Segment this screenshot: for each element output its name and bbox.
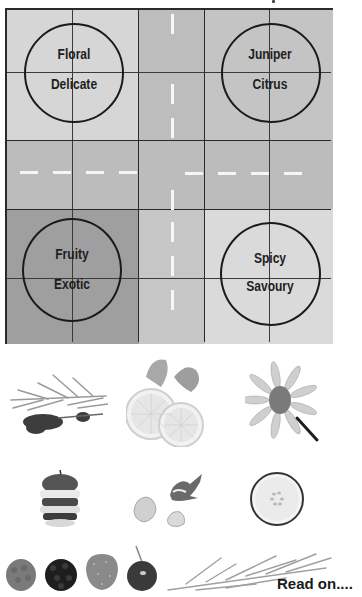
ginger-garlic-image: [128, 470, 210, 528]
quadrant-circle-floral: [24, 23, 124, 123]
quadrant-circle-fruity: [22, 218, 122, 322]
label-spicy: Spicy: [227, 250, 313, 266]
top-edge-mark: [272, 0, 275, 3]
label-exotic: Exotic: [29, 276, 115, 292]
road-dash: [171, 222, 174, 242]
rosemary-lavender-image: [8, 370, 108, 440]
road-dash: [218, 172, 236, 175]
strawberry-image: [82, 550, 122, 592]
road-dash: [185, 172, 203, 175]
label-fruity: Fruity: [29, 246, 115, 262]
grid-line-v3: [204, 10, 205, 342]
lemon-mint-image: [126, 352, 212, 447]
label-savoury: Savoury: [227, 278, 313, 294]
flavour-grid: Floral Delicate Juniper Citrus Fruity Ex…: [5, 8, 333, 344]
label-citrus: Citrus: [227, 76, 313, 92]
quadrant-circle-spicy: [220, 222, 321, 326]
cucumber-slice-image: [248, 470, 306, 528]
road-dash: [171, 190, 174, 210]
road-dash: [20, 171, 38, 174]
sliced-apple-image: [36, 468, 84, 528]
grid-line-h2: [7, 140, 331, 141]
road-dash: [171, 256, 174, 276]
road-dash: [171, 14, 174, 34]
road-dash: [53, 171, 71, 174]
label-floral: Floral: [31, 46, 117, 62]
label-delicate: Delicate: [31, 76, 117, 92]
read-on-link[interactable]: Read on....: [277, 575, 353, 592]
road-dash: [171, 290, 174, 310]
cherry-image: [124, 544, 160, 592]
road-dash: [171, 118, 174, 138]
blackberry-image: [43, 556, 79, 592]
grid-line-h3: [7, 209, 331, 210]
road-dash: [171, 84, 174, 104]
grid-line-v2: [138, 10, 139, 342]
quadrant-circle-juniper: [221, 23, 321, 123]
road-dash: [86, 171, 104, 174]
daisy-image: [245, 360, 325, 450]
road-dash: [119, 171, 137, 174]
road-dash: [251, 172, 269, 175]
road-dash: [284, 172, 302, 175]
raspberry-image: [4, 556, 38, 592]
label-juniper: Juniper: [227, 46, 313, 62]
